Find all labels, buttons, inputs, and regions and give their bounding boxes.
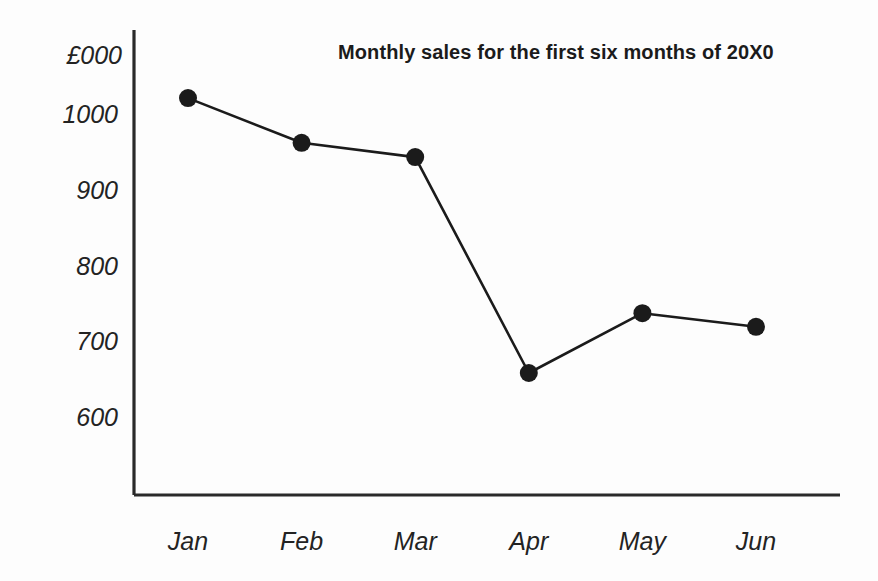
chart-title: Monthly sales for the first six months o… xyxy=(338,41,774,64)
y-tick-label-700: 700 xyxy=(0,327,118,356)
data-point-markers xyxy=(179,89,765,382)
x-tick-label-jun: Jun xyxy=(701,527,811,556)
y-axis-unit-label: £000 xyxy=(2,41,122,70)
x-tick-label-apr: Apr xyxy=(474,527,584,556)
data-point-mar xyxy=(406,148,424,166)
line-chart-plot xyxy=(0,0,878,581)
data-point-apr xyxy=(520,364,538,382)
x-tick-label-mar: Mar xyxy=(360,527,470,556)
y-tick-label-800: 800 xyxy=(0,252,118,281)
data-point-jan xyxy=(179,89,197,107)
data-point-jun xyxy=(747,318,765,336)
x-tick-label-may: May xyxy=(587,527,697,556)
data-point-feb xyxy=(293,134,311,152)
data-series-line xyxy=(188,98,756,373)
y-tick-label-600: 600 xyxy=(0,403,118,432)
y-tick-label-1000: 1000 xyxy=(0,100,118,129)
x-tick-label-feb: Feb xyxy=(247,527,357,556)
chart-figure: Monthly sales for the first six months o… xyxy=(0,0,878,581)
data-point-may xyxy=(633,304,651,322)
y-tick-label-900: 900 xyxy=(0,176,118,205)
x-tick-label-jan: Jan xyxy=(133,527,243,556)
